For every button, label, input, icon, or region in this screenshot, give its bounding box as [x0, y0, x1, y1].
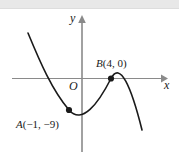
- point-label-b: B(4, 0): [96, 58, 127, 69]
- x-axis-label: x: [164, 79, 169, 91]
- point-label-a-coords: (−1, −9): [23, 118, 59, 130]
- graph-figure: y x O B(4, 0) A(−1, −9): [0, 0, 179, 152]
- point-label-b-coords: (4, 0): [103, 57, 127, 69]
- origin-label: O: [69, 80, 78, 92]
- point-marker-a: [66, 107, 72, 113]
- y-axis-label: y: [70, 12, 75, 24]
- point-label-a: A(−1, −9): [16, 119, 59, 130]
- point-marker-b: [108, 75, 114, 81]
- y-axis-arrowhead: [78, 15, 86, 23]
- point-label-a-name: A: [16, 118, 23, 130]
- point-label-b-name: B: [96, 57, 103, 69]
- cubic-curve: [28, 33, 142, 130]
